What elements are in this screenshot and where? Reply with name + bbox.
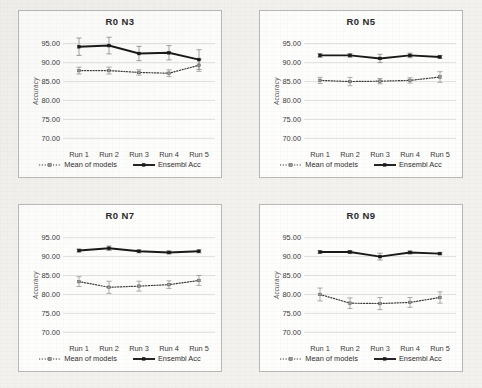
x-axis-tick-label: Run 3 [365, 150, 395, 159]
y-axis-tick-label: 95.00 [35, 39, 60, 48]
data-point-marker [198, 58, 201, 61]
y-axis-tick-label: 95.00 [35, 233, 60, 242]
data-point-marker [138, 71, 141, 74]
x-axis-tick-label: Run 1 [305, 150, 335, 159]
series-mean-of-models [76, 276, 201, 294]
x-axis-tick-label: Run 5 [425, 344, 455, 353]
data-point-marker [409, 79, 412, 82]
solid-line-marker-icon [374, 355, 396, 363]
y-axis-tick-label: 90.00 [276, 252, 301, 261]
data-point-marker [379, 255, 382, 258]
data-point-marker [108, 247, 111, 250]
legend-item-mean-of-models[interactable]: Mean of models [280, 354, 358, 363]
solid-line-marker-icon [133, 161, 155, 169]
y-axis-tick-label: 90.00 [35, 252, 60, 261]
y-axis-tick-label: 75.00 [276, 309, 301, 318]
legend-label-ensemble: Ensembl Acc [158, 160, 201, 169]
dotted-line-marker-icon [39, 161, 61, 169]
data-point-marker [108, 69, 111, 72]
x-axis-tick-label: Run 2 [335, 150, 365, 159]
legend-label-mean: Mean of models [305, 160, 358, 169]
y-axis-tick-label: 70.00 [35, 328, 60, 337]
data-point-marker [78, 249, 81, 252]
y-axis-tick-label: 80.00 [35, 96, 60, 105]
chart-panel-r0-n5: R0 N5Accuracy95.0090.0085.0080.0075.0070… [259, 10, 463, 178]
y-axis-tick-label: 90.00 [276, 58, 301, 67]
y-axis-tick-label: 75.00 [276, 115, 301, 124]
x-axis-tick-label: Run 3 [124, 150, 154, 159]
y-axis-tick-label: 80.00 [276, 96, 301, 105]
data-point-marker [198, 250, 201, 253]
series-mean-of-models [317, 72, 442, 86]
panel-cell: R0 N9Accuracy95.0090.0085.0080.0075.0070… [241, 194, 482, 388]
legend-item-mean-of-models[interactable]: Mean of models [39, 160, 117, 169]
data-point-marker [168, 283, 171, 286]
data-point-marker [168, 72, 171, 75]
data-point-marker [439, 56, 442, 59]
legend-item-mean-of-models[interactable]: Mean of models [39, 354, 117, 363]
x-axis-tick-label: Run 4 [154, 344, 184, 353]
legend-item-ensembl-acc[interactable]: Ensembl Acc [374, 354, 442, 363]
legend-item-ensembl-acc[interactable]: Ensembl Acc [133, 160, 201, 169]
chart-legend: Mean of modelsEnsembl Acc [260, 354, 462, 363]
data-point-marker [319, 251, 322, 254]
y-axis-tick-label: 80.00 [276, 290, 301, 299]
data-point-marker [379, 302, 382, 305]
chart-panel-r0-n7: R0 N7Accuracy95.0090.0085.0080.0075.0070… [18, 204, 222, 372]
data-point-marker [138, 285, 141, 288]
panel-cell: R0 N7Accuracy95.0090.0085.0080.0075.0070… [0, 194, 241, 388]
legend-label-ensemble: Ensembl Acc [399, 160, 442, 169]
x-axis-tick-label: Run 4 [395, 344, 425, 353]
x-axis-tick-label: Run 3 [365, 344, 395, 353]
y-axis-tick-label: 85.00 [276, 271, 301, 280]
data-point-marker [349, 80, 352, 83]
data-point-marker [349, 302, 352, 305]
dotted-line-marker-icon [280, 161, 302, 169]
data-point-marker [319, 54, 322, 57]
legend-item-ensembl-acc[interactable]: Ensembl Acc [374, 160, 442, 169]
legend-label-mean: Mean of models [64, 160, 117, 169]
x-axis-tick-label: Run 2 [94, 150, 124, 159]
panel-cell: R0 N3Accuracy95.0090.0085.0080.0075.0070… [0, 0, 241, 194]
series-ensembl-acc [317, 251, 442, 260]
y-axis-tick-label: 85.00 [35, 77, 60, 86]
series-ensembl-acc [76, 246, 201, 254]
y-axis-tick-label: 70.00 [276, 328, 301, 337]
data-point-marker [198, 279, 201, 282]
data-point-marker [78, 280, 81, 283]
legend-item-mean-of-models[interactable]: Mean of models [280, 160, 358, 169]
x-axis-tick-label: Run 2 [94, 344, 124, 353]
data-point-marker [379, 80, 382, 83]
legend-item-ensembl-acc[interactable]: Ensembl Acc [133, 354, 201, 363]
chart-legend: Mean of modelsEnsembl Acc [19, 160, 221, 169]
data-point-marker [138, 52, 141, 55]
legend-label-ensemble: Ensembl Acc [158, 354, 201, 363]
chart-panel-r0-n9: R0 N9Accuracy95.0090.0085.0080.0075.0070… [259, 204, 463, 372]
series-ensembl-acc [317, 53, 442, 62]
y-axis-tick-label: 95.00 [276, 233, 301, 242]
x-axis-tick-label: Run 4 [154, 150, 184, 159]
dotted-line-marker-icon [39, 355, 61, 363]
x-axis-tick-label: Run 5 [184, 150, 214, 159]
x-axis-tick-label: Run 2 [335, 344, 365, 353]
x-axis-tick-label: Run 4 [395, 150, 425, 159]
data-point-marker [319, 293, 322, 296]
legend-label-ensemble: Ensembl Acc [399, 354, 442, 363]
x-axis-tick-label: Run 5 [184, 344, 214, 353]
y-axis-tick-label: 75.00 [35, 309, 60, 318]
chart-legend: Mean of modelsEnsembl Acc [19, 354, 221, 363]
series-mean-of-models [76, 59, 201, 76]
y-axis-tick-label: 95.00 [276, 39, 301, 48]
data-point-marker [409, 301, 412, 304]
data-point-marker [108, 44, 111, 47]
data-point-marker [349, 54, 352, 57]
y-axis-tick-label: 85.00 [276, 77, 301, 86]
y-axis-tick-label: 70.00 [35, 134, 60, 143]
panel-cell: R0 N5Accuracy95.0090.0085.0080.0075.0070… [241, 0, 482, 194]
legend-label-mean: Mean of models [64, 354, 117, 363]
solid-line-marker-icon [374, 161, 396, 169]
data-point-marker [78, 45, 81, 48]
data-point-marker [379, 57, 382, 60]
x-axis-tick-label: Run 3 [124, 344, 154, 353]
data-point-marker [78, 69, 81, 72]
